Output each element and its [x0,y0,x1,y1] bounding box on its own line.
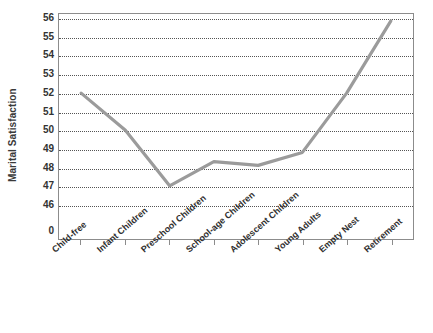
y-tick-label-50: 50 [26,125,54,135]
y-tick-label-56: 56 [26,13,54,23]
y-tick-label-47: 47 [26,181,54,191]
y-tick-label-54: 54 [26,50,54,60]
y-tick-label-55: 55 [26,32,54,42]
series-line-marital-satisfaction [81,21,391,186]
y-tick-label-52: 52 [26,88,54,98]
y-tick-label-49: 49 [26,144,54,154]
y-tick-label-51: 51 [26,107,54,117]
x-axis-category-labels: Child-freeInfant ChildrenPreschool Child… [0,243,433,333]
y-tick-label-53: 53 [26,69,54,79]
y-tick-label-46: 46 [26,200,54,210]
y-tick-label-48: 48 [26,163,54,173]
y-tick-label-0: 0 [26,226,54,236]
marital-satisfaction-line-chart: Marital Satisfaction 5655545352515049484… [0,0,433,333]
y-axis-title: Marital Satisfaction [4,60,20,210]
